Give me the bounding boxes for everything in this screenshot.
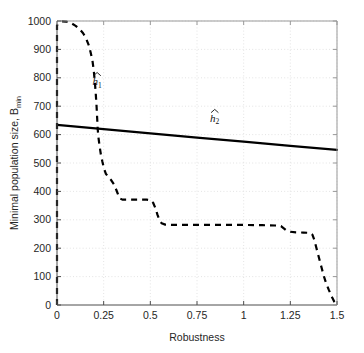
ytick-label: 800	[33, 71, 51, 83]
x-axis-title: Robustness	[169, 331, 224, 343]
ytick-label: 1000	[28, 15, 52, 27]
ytick-label: 400	[33, 185, 51, 197]
chart-figure: 00.250.50.7511.251.501002003004005006007…	[0, 0, 364, 353]
ytick-label: 300	[33, 213, 51, 225]
y-axis-title: Minimal population size, Bmin	[8, 96, 23, 230]
ytick-label: 100	[33, 270, 51, 282]
ytick-label: 0	[45, 299, 51, 311]
xtick-label: 0.5	[143, 309, 158, 321]
xtick-label: 1.5	[330, 309, 345, 321]
ytick-label: 700	[33, 100, 51, 112]
xtick-label: 0.25	[93, 309, 114, 321]
xtick-label: 0.75	[187, 309, 208, 321]
ytick-label: 200	[33, 242, 51, 254]
xtick-label: 1	[241, 309, 247, 321]
ytick-label: 600	[33, 128, 51, 140]
robustness-vs-minimal-population-size-chart: 00.250.50.7511.251.501002003004005006007…	[0, 0, 364, 353]
ytick-label: 500	[33, 157, 51, 169]
y-axis-title-text: Minimal population size, Bmin	[8, 96, 23, 230]
xtick-label: 0	[54, 309, 60, 321]
ytick-label: 900	[33, 43, 51, 55]
xtick-label: 1.25	[280, 309, 301, 321]
